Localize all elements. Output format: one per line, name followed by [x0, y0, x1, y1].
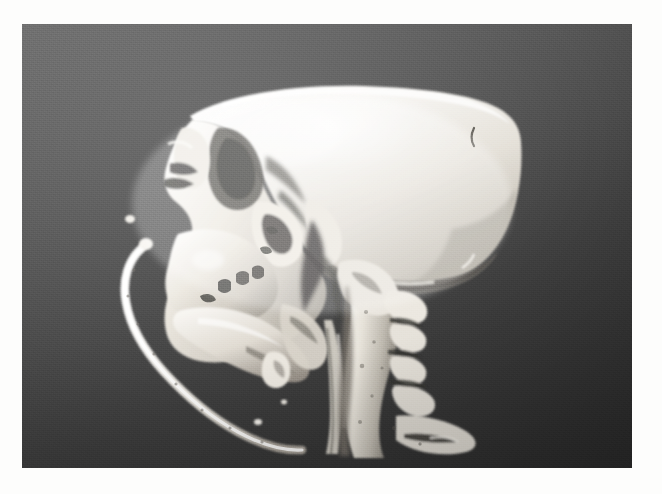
film-grain-texture: [22, 24, 632, 468]
figure-page: [0, 0, 662, 494]
ct-scan-frame: [22, 24, 632, 468]
